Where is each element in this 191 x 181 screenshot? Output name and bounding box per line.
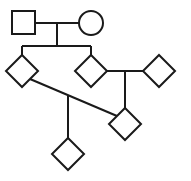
- unknown-sex-diamond-icon: [6, 55, 38, 87]
- male-square-icon: [12, 11, 35, 34]
- unknown-sex-diamond-icon: [143, 55, 175, 87]
- pedigree-diagram: [0, 0, 191, 181]
- mating-line-3: [30, 79, 117, 116]
- unknown-sex-diamond-icon: [109, 108, 141, 140]
- female-circle-icon: [79, 11, 103, 35]
- unknown-sex-diamond-icon: [75, 55, 107, 87]
- unknown-sex-diamond-icon: [52, 138, 84, 170]
